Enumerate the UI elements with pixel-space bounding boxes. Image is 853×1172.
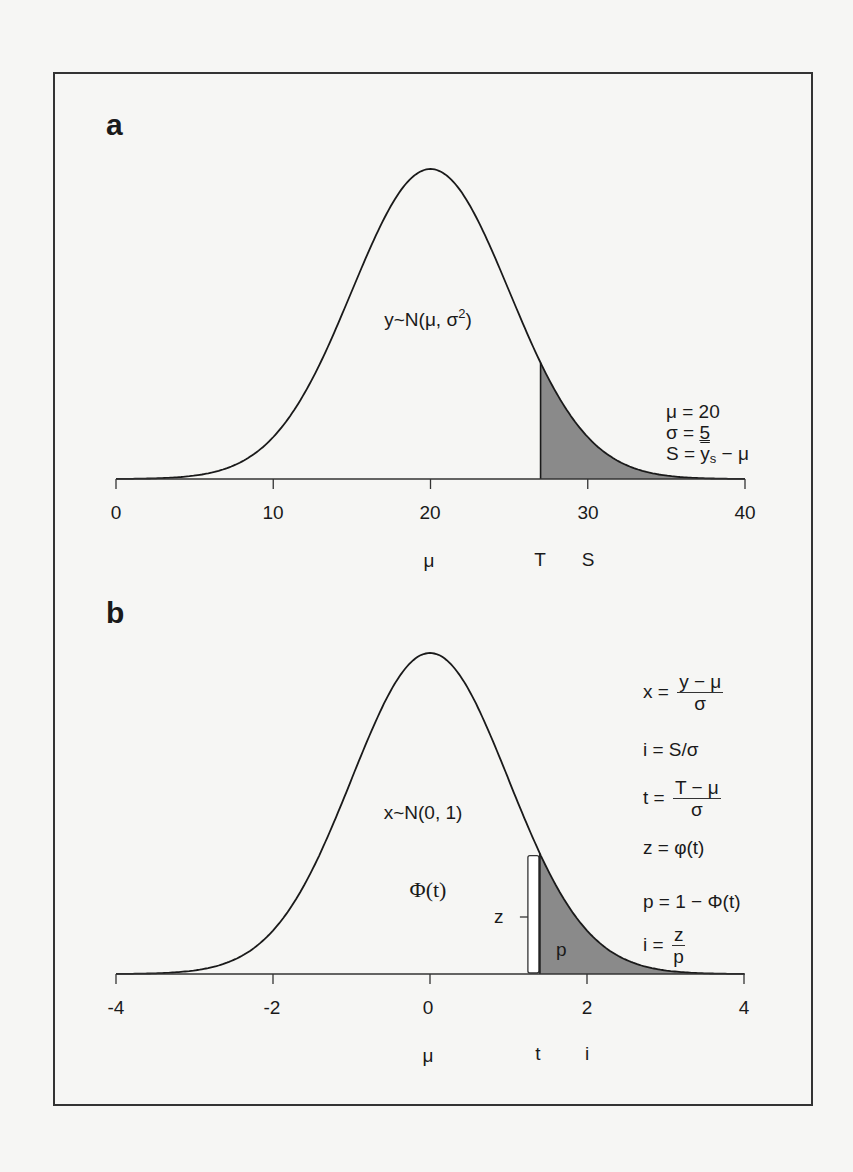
legend-sigma-lhs: σ =	[666, 422, 699, 443]
panel-b-tick-label-neg2: -2	[264, 998, 281, 1017]
panel-b-tick-label-neg4: -4	[108, 998, 125, 1017]
formula-i-zp: i = zp	[643, 925, 685, 966]
panel-b-label: b	[106, 598, 124, 628]
formula-z: z = φ(t)	[643, 838, 704, 857]
panel-a-tick-label-30: 30	[577, 503, 598, 522]
panel-a-tick-label-10: 10	[262, 503, 283, 522]
panel-b-tick-marks	[116, 974, 744, 984]
formula-x-num: y − μ	[677, 672, 723, 693]
panel-a-T-marker: T	[534, 550, 546, 569]
shaded-p-label: p	[556, 940, 567, 959]
figure: a y~N(μ, σ2) 0 10 20 30 40 μ T S μ = 20 …	[0, 0, 853, 1172]
formula-i2-num: z	[672, 925, 686, 946]
panel-a-label: a	[106, 110, 123, 140]
panel-a-dist-text: y~N(μ, σ	[384, 309, 458, 330]
legend-S: S = ys − μ	[666, 444, 749, 465]
formula-x-lhs: x =	[643, 681, 674, 702]
panel-a-mu-marker: μ	[424, 551, 435, 570]
legend-sigma-val: 5	[699, 422, 710, 443]
panel-b-t-marker: t	[535, 1044, 540, 1063]
panel-a-dist-close: )	[465, 309, 471, 330]
panel-a-tick-label-40: 40	[734, 503, 755, 522]
panel-a-S-marker: S	[582, 550, 595, 569]
legend-S-lhs: S =	[666, 443, 700, 464]
panel-a-tick-label-20: 20	[419, 503, 440, 522]
formula-t-num: T − μ	[673, 778, 721, 799]
formula-p: p = 1 − Φ(t)	[643, 892, 741, 911]
brace-z-label: z	[494, 907, 504, 926]
panel-b-cdf-label: Φ(t)	[410, 879, 447, 901]
legend-sigma: σ = 5	[666, 423, 710, 442]
legend-S-ybar: y	[700, 443, 710, 464]
formula-x: x = y − μσ	[643, 672, 723, 713]
formula-i2-den: p	[672, 946, 686, 966]
formula-t-lhs: t =	[643, 787, 670, 808]
panel-b-i-marker: i	[585, 1044, 589, 1063]
panel-a-tick-marks	[116, 479, 745, 489]
panel-b-shaded-tail	[540, 854, 744, 975]
panel-a-tick-label-0: 0	[111, 503, 122, 522]
formula-i-S: i = S/σ	[643, 740, 699, 759]
panel-b-tick-label-0: 0	[423, 998, 434, 1017]
formula-x-den: σ	[677, 693, 723, 713]
panel-a-distribution-label: y~N(μ, σ2)	[384, 307, 471, 329]
panel-b-distribution-label: x~N(0, 1)	[384, 803, 463, 822]
formula-t-fraction: T − μσ	[673, 778, 721, 819]
formula-i2-lhs: i =	[643, 934, 669, 955]
panel-b-tick-label-2: 2	[582, 998, 593, 1017]
legend-mu: μ = 20	[666, 402, 720, 421]
formula-t: t = T − μσ	[643, 778, 721, 819]
z-height-brace	[528, 856, 539, 973]
legend-S-rhs: − μ	[716, 443, 749, 464]
formula-x-fraction: y − μσ	[677, 672, 723, 713]
panel-b-tick-label-4: 4	[739, 998, 750, 1017]
panel-b-mu-marker: μ	[423, 1046, 434, 1065]
formula-i2-fraction: zp	[672, 925, 686, 966]
formula-t-den: σ	[673, 799, 721, 819]
